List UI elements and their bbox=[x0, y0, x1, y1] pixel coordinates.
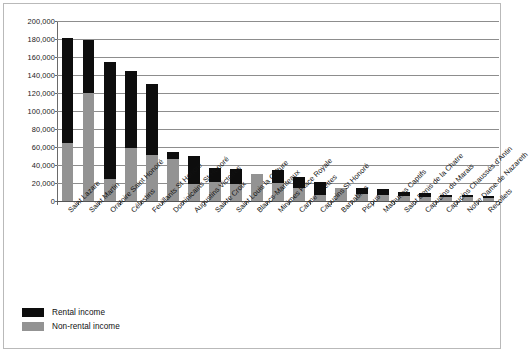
y-tick-label: 80,000 bbox=[3, 125, 55, 134]
bar-segment-rental-income[interactable] bbox=[83, 40, 95, 93]
bar-group[interactable] bbox=[146, 84, 158, 201]
y-tick-label: 100,000 bbox=[3, 107, 55, 116]
bar-segment-non-rental-income[interactable] bbox=[62, 143, 74, 202]
bar-segment-rental-income[interactable] bbox=[104, 62, 116, 179]
bar-segment-rental-income[interactable] bbox=[125, 71, 137, 148]
y-tick-label: 20,000 bbox=[3, 179, 55, 188]
bar-group[interactable] bbox=[83, 40, 95, 201]
legend-swatch-non-rental-income bbox=[22, 322, 44, 331]
y-axis: 020,00040,00060,00080,000100,000120,0001… bbox=[0, 21, 55, 201]
bar-segment-rental-income[interactable] bbox=[167, 152, 179, 159]
legend-swatch-rental-income bbox=[22, 308, 44, 317]
y-tick-label: 60,000 bbox=[3, 143, 55, 152]
y-tick-label: 140,000 bbox=[3, 71, 55, 80]
chart-legend: Rental income Non-rental income bbox=[22, 305, 120, 333]
y-tick-label: 180,000 bbox=[3, 35, 55, 44]
bar-group[interactable] bbox=[62, 38, 74, 201]
y-tick-label: 0 bbox=[3, 197, 55, 206]
y-tick-label: 160,000 bbox=[3, 53, 55, 62]
bar-segment-rental-income[interactable] bbox=[62, 38, 74, 142]
y-tick-label: 120,000 bbox=[3, 89, 55, 98]
legend-label-rental-income: Rental income bbox=[52, 308, 105, 317]
bar-segment-rental-income[interactable] bbox=[377, 189, 389, 194]
legend-label-non-rental-income: Non-rental income bbox=[52, 322, 120, 331]
legend-item-rental-income[interactable]: Rental income bbox=[22, 305, 120, 319]
y-tick-label: 40,000 bbox=[3, 161, 55, 170]
legend-item-non-rental-income[interactable]: Non-rental income bbox=[22, 319, 120, 333]
bar-segment-rental-income[interactable] bbox=[146, 84, 158, 155]
x-tick-mark bbox=[57, 202, 58, 205]
y-tick-label: 200,000 bbox=[3, 17, 55, 26]
